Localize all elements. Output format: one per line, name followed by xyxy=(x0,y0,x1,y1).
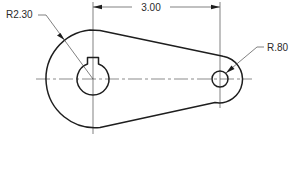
small-radius-callout: R.80 xyxy=(226,42,289,73)
dimension-label-3-00: 3.00 xyxy=(141,2,161,13)
center-distance-dimension: 3.00 xyxy=(93,2,220,13)
arrowhead-left-icon xyxy=(93,5,102,9)
part-outline xyxy=(46,30,242,128)
arrowhead-right-icon xyxy=(211,5,220,9)
dimension-label-r2-30: R2.30 xyxy=(6,9,33,20)
dimension-label-r-80: R.80 xyxy=(267,42,289,53)
arrowhead-r2-30-icon xyxy=(57,33,65,40)
center-lines xyxy=(36,2,252,134)
technical-drawing: 3.00 R2.30 R.80 xyxy=(0,0,294,171)
